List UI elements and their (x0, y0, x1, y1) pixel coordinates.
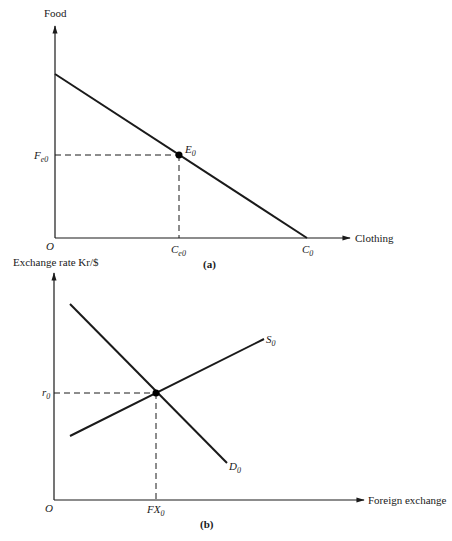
caption-b: (b) (200, 518, 214, 531)
panel-a: Food Clothing O Fe0 E0 Ce0 C0 (a) (33, 7, 394, 271)
c0-label: C0 (302, 243, 313, 258)
origin-label-b: O (45, 502, 53, 514)
food-axis-label: Food (44, 7, 67, 19)
fe0-label: Fe0 (33, 149, 48, 164)
e0-label: E0 (184, 143, 196, 158)
foreign-exchange-axis-label: Foreign exchange (368, 494, 447, 506)
caption-a: (a) (203, 258, 216, 271)
supply-curve-s0 (70, 339, 264, 436)
d0-label: D0 (228, 460, 241, 475)
equilibrium-point (153, 390, 160, 397)
s0-label: S0 (266, 333, 276, 348)
origin-label-a: O (46, 240, 54, 252)
demand-curve-d0 (70, 304, 227, 463)
fx0-label: FX0 (146, 503, 164, 518)
ce0-label: Ce0 (171, 243, 186, 258)
equilibrium-point-e0 (176, 152, 183, 159)
exchange-rate-axis-label: Exchange rate Kr/$ (13, 256, 99, 268)
diagram-canvas: Food Clothing O Fe0 E0 Ce0 C0 (a) Exchan… (0, 0, 452, 541)
r0-label: r0 (42, 386, 50, 401)
panel-b: Exchange rate Kr/$ Foreign exchange O r0… (13, 256, 447, 531)
clothing-axis-label: Clothing (355, 232, 394, 244)
